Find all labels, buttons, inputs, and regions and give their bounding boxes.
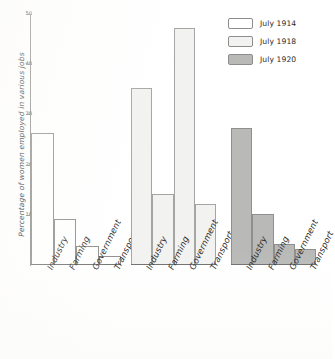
y-axis-title: Percentage of women employed in various … bbox=[17, 20, 26, 270]
medium-gray-swatch-icon bbox=[228, 54, 253, 65]
bars-container bbox=[31, 12, 121, 264]
bars-container bbox=[131, 12, 216, 264]
bar-industry-july-1918[interactable] bbox=[131, 88, 152, 264]
light-gray-swatch-icon bbox=[228, 36, 253, 47]
legend-label-1914: July 1914 bbox=[260, 19, 296, 28]
bar-government-july-1918[interactable] bbox=[174, 28, 195, 264]
bar-industry-july-1920[interactable] bbox=[231, 128, 252, 264]
white-swatch-icon bbox=[228, 18, 253, 29]
legend: July 1914 July 1918 July 1920 bbox=[228, 14, 328, 68]
category-labels: IndustryFarmingGovernmentTransport bbox=[131, 267, 216, 357]
legend-item-1918[interactable]: July 1918 bbox=[228, 32, 328, 50]
legend-item-1914[interactable]: July 1914 bbox=[228, 14, 328, 32]
legend-label-1920: July 1920 bbox=[260, 55, 296, 64]
legend-label-1918: July 1918 bbox=[260, 37, 296, 46]
category-labels: IndustryFarmingGovernmentTransport bbox=[31, 267, 121, 357]
legend-item-1920[interactable]: July 1920 bbox=[228, 50, 328, 68]
bar-industry-july-1914[interactable] bbox=[31, 133, 54, 264]
category-labels: IndustryFarmingGovernmentTransport bbox=[231, 267, 316, 357]
